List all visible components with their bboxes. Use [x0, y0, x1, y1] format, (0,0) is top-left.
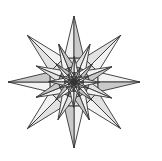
star-spiral-figure	[0, 0, 162, 161]
figure-canvas	[0, 0, 162, 161]
spiral-layers-group	[8, 16, 140, 148]
center-hub-lines	[71, 79, 77, 85]
